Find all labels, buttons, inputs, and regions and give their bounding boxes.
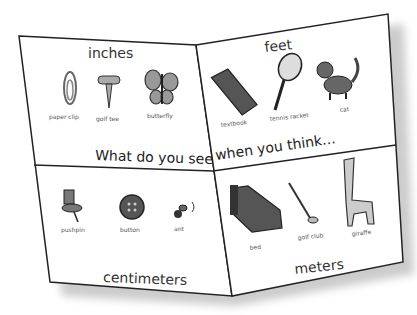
- item-label: ant: [174, 225, 184, 232]
- butterfly-icon: [145, 70, 178, 104]
- section-title: feet: [264, 36, 294, 55]
- item-label: pushpin: [61, 226, 85, 234]
- item-label: cat: [339, 105, 350, 113]
- section-title: inches: [88, 45, 133, 61]
- section-title: centimeters: [103, 269, 187, 288]
- item-label: bed: [249, 243, 261, 251]
- item-label: golf tee: [96, 115, 119, 123]
- item-label: paper clip: [49, 113, 79, 121]
- item-label: butterfly: [147, 112, 173, 120]
- button-icon: [120, 195, 144, 219]
- item-label: button: [120, 226, 140, 233]
- foldable-worksheet: inches paper clip golf tee butterfly Wha…: [0, 0, 417, 315]
